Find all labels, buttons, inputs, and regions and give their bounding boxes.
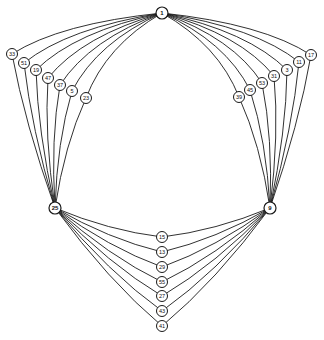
edge	[47, 13, 162, 208]
edge	[162, 13, 311, 208]
node: 55	[157, 277, 168, 288]
node: 37	[55, 80, 66, 91]
node-label: 41	[159, 323, 165, 329]
node: 39	[234, 92, 245, 103]
node-label: 27	[159, 293, 165, 299]
node: 27	[157, 291, 168, 302]
node: 17	[306, 50, 317, 61]
node: 53	[257, 78, 268, 89]
node-label: 19	[33, 67, 39, 73]
node-label: 17	[308, 52, 314, 58]
node: 3	[282, 65, 293, 76]
node: 33	[7, 49, 18, 60]
edge	[162, 13, 270, 208]
edge	[12, 13, 162, 208]
node-label: 11	[296, 59, 302, 65]
node: 11	[294, 57, 305, 68]
node-label: 33	[9, 51, 15, 57]
edge	[55, 13, 162, 208]
node-label: 15	[159, 234, 165, 240]
node-label: 23	[83, 95, 89, 101]
node: 43	[157, 306, 168, 317]
node-label: 3	[285, 67, 288, 73]
node: 31	[269, 71, 280, 82]
graph-diagram: 1259335119473752339455331311171513295527…	[0, 0, 324, 340]
edge	[55, 13, 162, 208]
edge	[36, 13, 162, 208]
edge	[162, 13, 270, 208]
hub-node: 1	[156, 7, 168, 19]
node: 45	[245, 85, 256, 96]
edge	[162, 13, 276, 208]
node-label: 5	[70, 88, 73, 94]
node-label: 51	[21, 60, 27, 66]
node-label: 13	[159, 249, 165, 255]
node: 15	[157, 232, 168, 243]
node-label: 55	[159, 279, 165, 285]
edge	[162, 13, 299, 208]
node: 51	[19, 58, 30, 69]
node-label: 47	[45, 75, 51, 81]
node: 47	[43, 73, 54, 84]
node-label: 37	[57, 82, 63, 88]
node-label: 31	[271, 73, 277, 79]
edge	[162, 13, 287, 208]
node: 19	[31, 65, 42, 76]
node: 23	[81, 93, 92, 104]
node: 41	[157, 321, 168, 332]
node-label: 45	[247, 87, 253, 93]
node-label: 53	[259, 80, 265, 86]
edge	[162, 13, 271, 208]
edge	[54, 13, 162, 208]
node-label: 43	[159, 308, 165, 314]
node: 13	[157, 247, 168, 258]
node: 29	[157, 262, 168, 273]
node: 5	[67, 86, 78, 97]
node-label: 39	[236, 94, 242, 100]
hub-node: 25	[49, 202, 61, 214]
node-label: 29	[159, 264, 165, 270]
hub-node: 9	[264, 202, 276, 214]
node-label: 25	[52, 205, 59, 211]
